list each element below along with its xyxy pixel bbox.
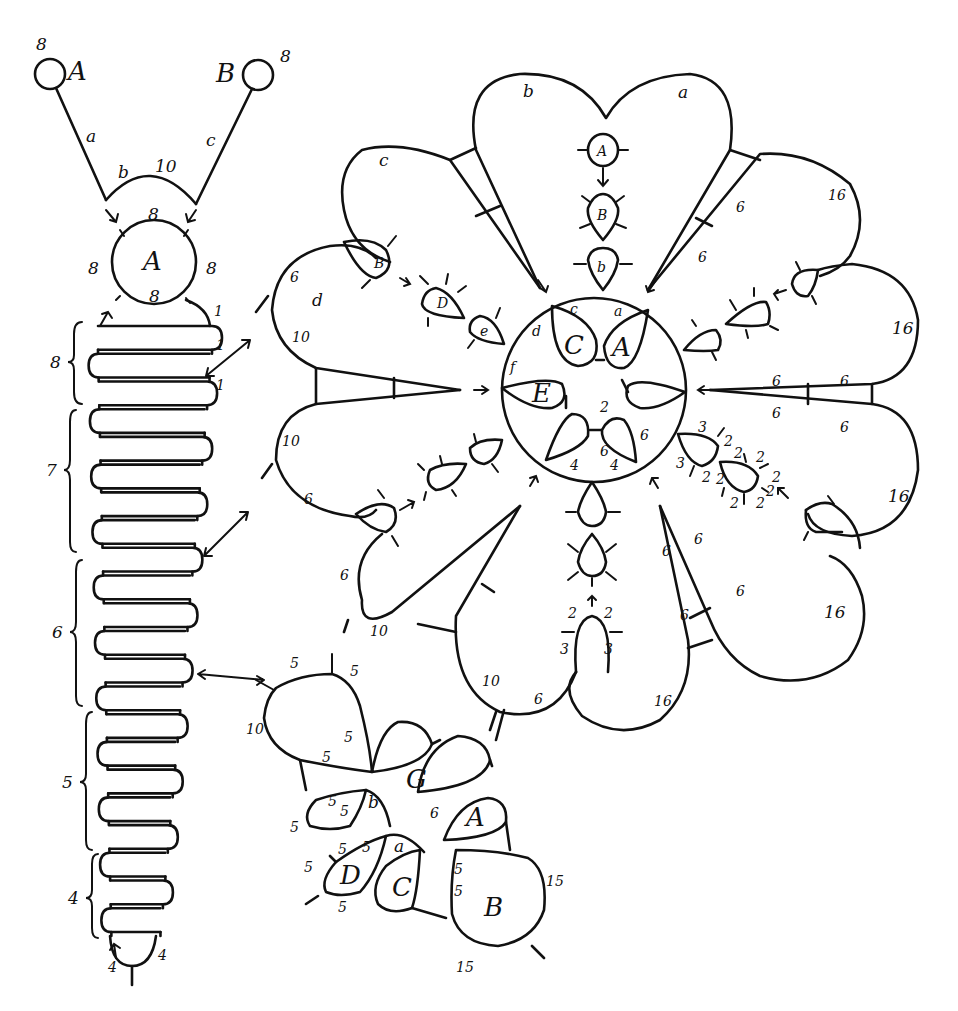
ladder-rung (98, 326, 222, 350)
svg-text:B: B (373, 255, 384, 271)
center-ring-left-count: 8 (88, 258, 99, 278)
svg-text:2: 2 (603, 605, 613, 621)
ladder-rung (90, 409, 205, 433)
ladder-rung (102, 492, 207, 516)
svg-text:5: 5 (322, 749, 331, 765)
svg-text:5: 5 (350, 663, 359, 679)
svg-text:C: C (392, 872, 412, 902)
arrow-icon (474, 386, 488, 394)
chain-b-count: 10 (155, 156, 177, 176)
ladder-rung (94, 576, 190, 600)
top-ring-b (243, 60, 273, 90)
ladder-rung (89, 354, 210, 378)
left-lower-chain-rings (356, 434, 502, 546)
petal-16-top (648, 154, 860, 290)
chain-c (196, 89, 252, 204)
petal-count: 10 (482, 673, 500, 689)
svg-text:e: e (480, 323, 488, 339)
petal-count: 6 (534, 691, 543, 707)
svg-text:3: 3 (604, 641, 613, 657)
svg-text:2: 2 (715, 471, 725, 487)
svg-text:5: 5 (340, 803, 349, 819)
petal-count: 16 (888, 486, 910, 506)
svg-text:b: b (597, 259, 606, 275)
petal-10-lower-left (359, 506, 520, 619)
ring-a-count: 8 (36, 34, 47, 54)
svg-text:3: 3 (698, 419, 707, 435)
ladder-rung (98, 742, 176, 766)
ladder-rung (92, 520, 194, 544)
inner-ring-c-label: C (564, 330, 584, 360)
petal-count: 10 (370, 623, 388, 639)
right-small-rings: 3 2 3 2 2 2 2 2 2 2 2 (676, 419, 860, 548)
center-ring-label: A (141, 246, 162, 276)
ladder-rung (91, 465, 200, 489)
petal-count: 16 (892, 318, 914, 338)
svg-text:3: 3 (676, 455, 685, 471)
svg-text:15: 15 (456, 959, 474, 975)
petal-count: 10 (282, 433, 300, 449)
svg-text:D: D (339, 860, 361, 890)
ladder-rung (96, 686, 180, 710)
ladder-rung (99, 381, 217, 405)
arrow-icon (186, 210, 196, 222)
inner-ring-e-label: E (531, 378, 551, 408)
arrow-icon (698, 386, 712, 394)
ladder-rung (108, 770, 183, 794)
center-c: c (570, 301, 578, 317)
ladder-rung (95, 631, 185, 655)
petal-bars (696, 150, 760, 226)
svg-text:5: 5 (344, 729, 353, 745)
tatting-diagram: 8 A B 8 a b 10 c A 8 8 8 8 1 1 1 8 (0, 0, 958, 1011)
svg-text:2: 2 (723, 433, 733, 449)
svg-text:5: 5 (338, 899, 347, 915)
svg-text:b: b (368, 792, 379, 812)
svg-text:2: 2 (733, 445, 743, 461)
svg-text:3: 3 (560, 641, 569, 657)
double-arrow-icon (204, 512, 248, 556)
svg-text:5: 5 (290, 655, 299, 671)
top-chain-rings: A B b (574, 134, 632, 290)
svg-text:15: 15 (546, 873, 564, 889)
petal-count: 6 (698, 249, 707, 265)
petal-count: 6 (772, 405, 781, 421)
motif-ring-top-left (264, 674, 372, 772)
svg-text:A: A (464, 802, 485, 832)
center-6-right: 6 (640, 427, 649, 443)
arrow-icon (650, 478, 658, 488)
arrow-icon (106, 210, 118, 222)
petal-count: 6 (662, 543, 671, 559)
ladder-rung (103, 548, 202, 572)
svg-text:B: B (483, 892, 503, 922)
petal-d (272, 245, 460, 390)
arrow-icon (530, 476, 538, 486)
svg-text:5: 5 (304, 859, 313, 875)
motif-connectors (300, 710, 544, 958)
ladder-rung (101, 437, 213, 461)
ladder-rung (101, 908, 160, 932)
right-chain-rings (684, 262, 818, 360)
center-4-right: 4 (609, 457, 619, 473)
center-ring-top-count: 8 (148, 204, 159, 224)
center-d: d (532, 323, 541, 339)
svg-text:A: A (595, 143, 607, 159)
petal-c (342, 147, 540, 288)
bottom-right-count: 4 (157, 947, 167, 963)
svg-text:5: 5 (328, 793, 337, 809)
svg-text:2: 2 (701, 469, 711, 485)
center-ring-bottom-count: 8 (149, 286, 160, 306)
chain-a (56, 88, 106, 200)
flower: C A E c a d f 2 6 6 4 4 b a c d 6 (256, 74, 918, 730)
group-5-label: 5 (62, 772, 73, 792)
center-4-left: 4 (569, 457, 579, 473)
petal-count: 16 (828, 187, 846, 203)
arrow-icon (646, 280, 656, 292)
bottom-left-count: 4 (107, 959, 117, 975)
svg-text:2: 2 (765, 483, 775, 499)
petal-d-label: d (312, 290, 323, 310)
petal-count: 6 (290, 269, 299, 285)
svg-text:5: 5 (454, 861, 463, 877)
petal-count: 6 (736, 199, 745, 215)
arrow-icon (100, 312, 112, 326)
ladder-rung (99, 797, 170, 821)
